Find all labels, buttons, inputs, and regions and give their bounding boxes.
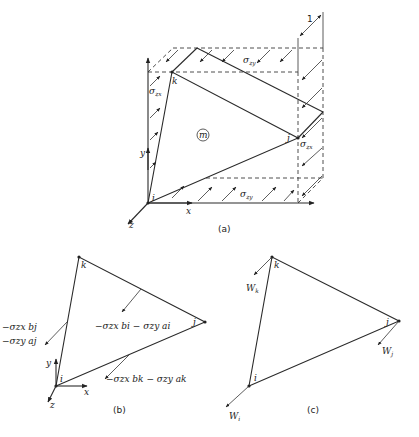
x-axis-label: x xyxy=(84,387,89,397)
node-i-label: i xyxy=(254,373,257,383)
strip-edge xyxy=(298,112,323,138)
strip-edge xyxy=(172,48,197,72)
load-label-ij: −σzx bk − σzy ak xyxy=(106,374,187,384)
node-j-label: j xyxy=(285,133,290,143)
node-k xyxy=(170,70,173,73)
element-triangle xyxy=(249,257,399,386)
right-shear-arrows xyxy=(302,60,322,196)
thickness-label: 1 xyxy=(307,14,313,24)
node-j xyxy=(203,320,206,323)
stress-label-right: σzx xyxy=(300,139,313,150)
figure-c: Wk Wj Wi k j i (c) xyxy=(226,255,401,422)
element-triangle xyxy=(148,72,298,203)
dashed-edge xyxy=(298,178,323,203)
y-axis-label: y xyxy=(45,358,52,368)
stress-label-top: σzy xyxy=(243,55,256,67)
dashed-edge xyxy=(148,48,173,72)
load-label-ik-2: −σzy aj xyxy=(2,336,37,346)
load-label-kj: −σzx bi − σzy ai xyxy=(95,321,170,331)
force-label-k: Wk xyxy=(246,283,259,294)
x-axis-label: x xyxy=(186,206,191,216)
z-axis-label: z xyxy=(49,400,55,410)
node-j-label: j xyxy=(384,317,389,327)
top-shear-arrows xyxy=(166,50,292,63)
node-j-label: j xyxy=(191,317,196,327)
z-axis-label: z xyxy=(128,220,134,230)
node-i xyxy=(146,201,149,204)
node-k-label: k xyxy=(274,260,279,270)
node-i-label: i xyxy=(152,193,155,203)
strip-edge xyxy=(197,48,323,112)
node-k-label: k xyxy=(81,260,86,270)
force-arrow-i xyxy=(226,386,249,407)
caption-b: (b) xyxy=(113,405,126,415)
diagram-canvas: 1 σzy σzy σzx σzx k j i m y x z (a) −σzx… xyxy=(0,0,419,437)
caption-c: (c) xyxy=(307,405,319,415)
load-label-ik-1: −σzx bj xyxy=(2,322,37,332)
figure-a: 1 σzy σzy σzx σzx k j i m y x z (a) xyxy=(128,12,323,234)
figure-b: −σzx bi − σzy ai −σzx bj −σzy aj −σzx bk… xyxy=(2,255,207,415)
caption-a: (a) xyxy=(218,224,231,234)
bottom-shear-arrows xyxy=(172,186,294,201)
force-label-i: Wi xyxy=(229,411,240,422)
node-k xyxy=(77,255,80,258)
load-arrow-kj xyxy=(122,289,141,312)
stress-label-left: σzx xyxy=(149,86,162,97)
y-axis-label: y xyxy=(139,148,146,158)
element-label: m xyxy=(199,130,208,140)
node-i-label: i xyxy=(60,374,63,384)
stress-label-bottom: σzy xyxy=(240,189,253,201)
node-k-label: k xyxy=(172,76,177,86)
force-label-j: Wj xyxy=(382,346,393,358)
